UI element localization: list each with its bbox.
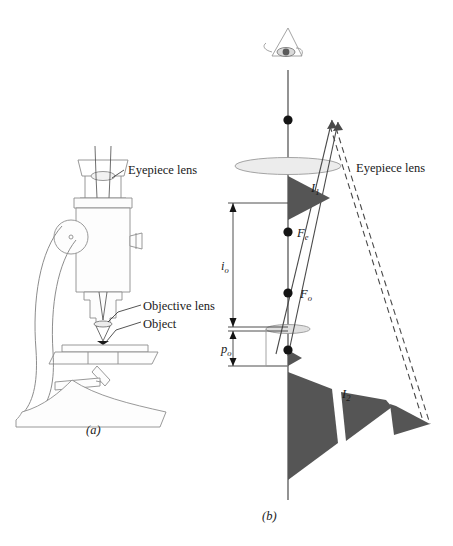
- specimen-object: [97, 341, 109, 345]
- eyepiece-lens-label-a: Eyepiece lens: [128, 163, 197, 177]
- panel-b-caption: (b): [262, 509, 277, 523]
- focal-point-objective-label: Fo: [299, 287, 312, 303]
- focal-point-eyepiece: [283, 227, 292, 236]
- eyepiece-lens-label-b: Eyepiece lens: [356, 161, 425, 175]
- image-distance-dimension: [228, 203, 288, 327]
- panel-a-microscope-drawing: [16, 146, 166, 427]
- second-image-arrow: [288, 372, 430, 480]
- objective-barrel: [84, 292, 122, 341]
- eye-icon: [264, 28, 302, 57]
- first-image-arrow: [288, 176, 330, 220]
- focal-point-eyepiece-label: Fe: [296, 226, 309, 242]
- axis-point-top: [283, 115, 292, 124]
- second-image-label: I2: [341, 387, 351, 403]
- image-distance-label: io: [221, 259, 229, 275]
- panel-a-caption: (a): [86, 423, 101, 437]
- microscope-body-tube: [54, 208, 142, 292]
- focal-point-objective: [283, 288, 292, 297]
- object-distance-label: po: [220, 342, 232, 358]
- object-distance-dimension: [228, 331, 288, 366]
- objective-lens-shape: [266, 325, 310, 334]
- first-image-label: I1: [310, 181, 319, 197]
- microscope-stage: [49, 345, 158, 364]
- microscope-figure: Eyepiece lens Objective lens Object (a): [0, 0, 453, 546]
- objective-lens-label: Objective lens: [143, 299, 215, 313]
- object-label: Object: [143, 317, 177, 331]
- axis-point-object: [283, 345, 292, 354]
- eyepiece-lens-shape: [235, 158, 341, 175]
